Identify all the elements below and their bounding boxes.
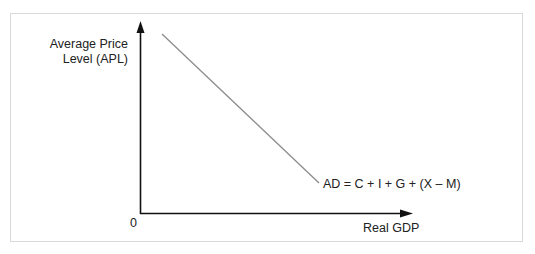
y-axis-label: Average Price Level (APL) xyxy=(50,37,128,67)
x-axis-arrow-icon xyxy=(400,210,413,218)
x-axis-label: Real GDP xyxy=(363,221,419,236)
origin-label: 0 xyxy=(130,216,137,231)
y-axis-label-line1: Average Price xyxy=(50,37,128,52)
ad-curve xyxy=(162,34,319,183)
y-axis-label-line2: Level (APL) xyxy=(50,52,128,67)
ad-curve-label: AD = C + I + G + (X – M) xyxy=(323,177,461,192)
y-axis-arrow-icon xyxy=(137,21,145,33)
